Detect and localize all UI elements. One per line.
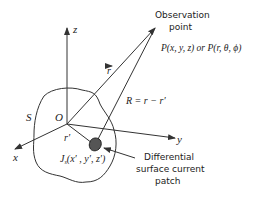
surface-label: S (26, 111, 32, 123)
R-vector (96, 28, 155, 143)
r-label: r (107, 65, 111, 76)
current-patch (89, 138, 101, 151)
observation-title-1: Observation (155, 10, 210, 20)
surface-outline (34, 88, 117, 182)
observation-coords: P(x, y, z) or P(r, θ, ϕ) (160, 43, 241, 54)
R-equation: R = r − r′ (125, 95, 166, 106)
diagram-canvas: z x y O S r r′ R = r − r′ Js(x′ , y′, z′… (0, 0, 265, 208)
r-vector (67, 28, 155, 124)
origin-label: O (55, 111, 63, 123)
patch-label-3: patch (155, 176, 180, 186)
patch-label-1: Differential (144, 152, 194, 162)
patch-pointer (104, 148, 135, 158)
observation-title-2: point (169, 22, 192, 32)
patch-label-2: surface current (136, 164, 205, 174)
x-label: x (12, 151, 18, 163)
z-label: z (72, 23, 78, 35)
x-axis (15, 124, 67, 149)
r-prime-label: r′ (64, 132, 71, 143)
y-label: y (176, 133, 182, 145)
current-label: Js(x′ , y′, z′) (60, 153, 106, 165)
diagram-svg: z x y O S r r′ R = r − r′ Js(x′ , y′, z′… (0, 0, 265, 208)
